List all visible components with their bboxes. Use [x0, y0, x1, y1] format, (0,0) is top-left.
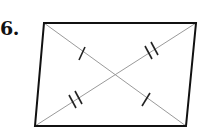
parallelogram-diagram [0, 0, 200, 137]
double-tick-mark [145, 42, 158, 59]
diagonal-2 [35, 23, 196, 126]
